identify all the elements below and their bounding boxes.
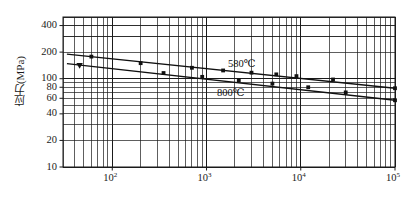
y-tick-label: 200 bbox=[41, 46, 57, 57]
y-tick-label: 400 bbox=[41, 19, 57, 30]
fatigue-sn-chart: 应力(MPa) 4002001008060402010 102103104105… bbox=[0, 0, 414, 197]
chart-plot-area bbox=[0, 0, 414, 197]
y-axis-tick-marks bbox=[60, 26, 64, 167]
y-tick-label: 60 bbox=[47, 92, 58, 103]
x-axis-tick-marks bbox=[112, 167, 395, 171]
series-label: 580℃ bbox=[228, 57, 256, 69]
x-tick-label: 105 bbox=[386, 172, 400, 183]
x-tick-label: 104 bbox=[292, 172, 306, 183]
y-tick-label: 40 bbox=[47, 107, 58, 118]
series-label: 800℃ bbox=[217, 86, 245, 98]
y-tick-label: 10 bbox=[47, 161, 58, 172]
x-tick-label: 102 bbox=[103, 172, 117, 183]
x-tick-label: 103 bbox=[198, 172, 212, 183]
y-tick-label: 80 bbox=[47, 81, 58, 92]
y-tick-label: 20 bbox=[47, 134, 58, 145]
y-axis-title: 应力(MPa) bbox=[14, 56, 30, 106]
